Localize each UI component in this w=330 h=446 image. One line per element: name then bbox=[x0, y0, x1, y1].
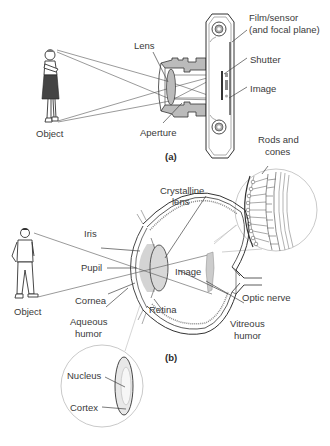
projected-image-b bbox=[206, 252, 214, 292]
label-object-a: Object bbox=[36, 128, 64, 139]
label-aperture: Aperture bbox=[140, 127, 176, 138]
label-humor-aqueous: humor bbox=[75, 328, 102, 339]
label-pupil: Pupil bbox=[81, 262, 102, 273]
shutter bbox=[221, 71, 223, 100]
label-rods-and: Rods and bbox=[258, 134, 299, 145]
crystalline-lens bbox=[150, 245, 168, 291]
label-film-sensor: Film/sensor bbox=[249, 12, 298, 23]
label-cones: cones bbox=[265, 146, 291, 157]
object-figure-man bbox=[12, 228, 38, 298]
label-shutter: Shutter bbox=[250, 54, 281, 65]
label-nucleus: Nucleus bbox=[67, 370, 102, 381]
label-cortex: Cortex bbox=[70, 402, 98, 413]
label-cornea: Cornea bbox=[75, 295, 107, 306]
label-image-b: Image bbox=[175, 266, 201, 277]
camera-eye-diagram: Film/sensor (and focal plane) Lens Shutt… bbox=[0, 0, 330, 446]
label-iris: Iris bbox=[84, 228, 97, 239]
label-image-a: Image bbox=[250, 83, 276, 94]
panel-b-eye: Rods and cones Crystalline lens Iris Pup… bbox=[12, 134, 317, 427]
label-humor-vitreous: humor bbox=[234, 330, 261, 341]
caption-a: (a) bbox=[165, 151, 177, 162]
label-retina: Retina bbox=[149, 304, 177, 315]
label-aqueous: Aqueous bbox=[70, 316, 108, 327]
label-lens-b: lens bbox=[172, 196, 190, 207]
label-object-b: Object bbox=[14, 306, 42, 317]
caption-b: (b) bbox=[165, 352, 177, 363]
label-lens: Lens bbox=[134, 40, 155, 51]
object-figure-woman bbox=[42, 49, 59, 122]
camera-body bbox=[206, 14, 234, 158]
light-rays-b bbox=[34, 233, 212, 297]
label-vitreous: Vitreous bbox=[230, 318, 265, 329]
label-crystalline: Crystalline bbox=[160, 185, 204, 196]
label-optic-nerve: Optic nerve bbox=[242, 292, 291, 303]
camera-lens bbox=[167, 69, 176, 105]
lens-barrel bbox=[159, 58, 207, 117]
label-focal-plane: (and focal plane) bbox=[249, 24, 320, 35]
